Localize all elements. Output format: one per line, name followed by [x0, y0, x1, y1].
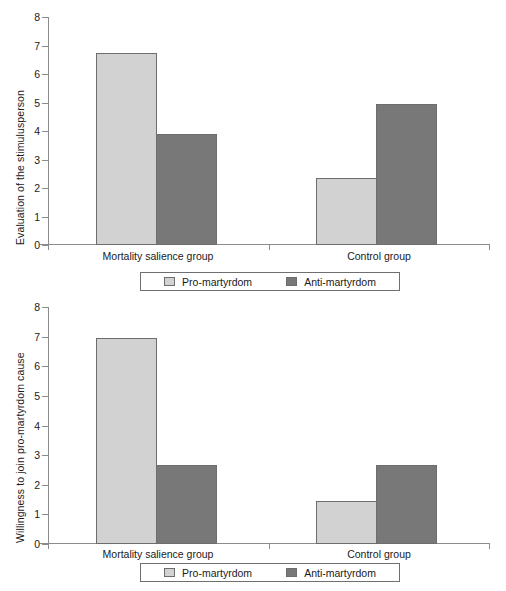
y-tick-label-3-top: 3: [22, 155, 40, 166]
y-tick-label-2-top: 2: [22, 183, 40, 194]
legend-swatch-anti-martyrdom-icon: [286, 277, 297, 286]
y-tick-label-7-bottom: 7: [22, 332, 40, 343]
y-tick-5-top: [42, 103, 49, 104]
y-tick-6-top: [42, 74, 49, 75]
y-tick-label-6-top: 6: [22, 69, 40, 80]
legend-label-anti-martyrdom-top: Anti-martyrdom: [304, 276, 376, 288]
y-tick-label-6-bottom: 6: [22, 361, 40, 372]
y-tick-label-1-top: 1: [22, 212, 40, 223]
y-tick-1-bottom: [42, 514, 49, 515]
y-tick-label-8-top: 8: [22, 12, 40, 23]
y-tick-3-bottom: [42, 455, 49, 456]
y-tick-3-top: [42, 160, 49, 161]
legend-swatch-pro-martyrdom-icon: [164, 277, 175, 286]
y-tick-2-top: [42, 188, 49, 189]
legend-label-pro-martyrdom-top: Pro-martyrdom: [182, 276, 252, 288]
legend-swatch-anti-martyrdom-icon: [286, 568, 297, 577]
y-tick-label-5-bottom: 5: [22, 391, 40, 402]
y-tick-4-top: [42, 131, 49, 132]
y-tick-label-3-bottom: 3: [22, 450, 40, 461]
y-tick-8-top: [42, 17, 49, 18]
legend-entry-pro-martyrdom-bottom: Pro-martyrdom: [164, 567, 252, 579]
y-tick-label-4-bottom: 4: [22, 421, 40, 432]
bar-control-anti-martyrdom-top: [376, 104, 437, 245]
plot-area-bottom: 8 7 6 5 4 3 2 1 0: [48, 307, 490, 544]
y-tick-7-bottom: [42, 337, 49, 338]
legend-top: Pro-martyrdom Anti-martyrdom: [140, 272, 400, 291]
bar-control-pro-martyrdom-top: [316, 178, 377, 245]
y-tick-2-bottom: [42, 485, 49, 486]
bar-mortality-pro-martyrdom-top: [96, 53, 157, 245]
bar-chart-figure: Evaluation of the stimulusperson 8 7 6 5…: [0, 0, 506, 591]
y-tick-5-bottom: [42, 396, 49, 397]
plot-area-top: 8 7 6 5 4 3 2 1 0: [48, 17, 490, 245]
bar-mortality-anti-martyrdom-bottom: [156, 465, 217, 544]
legend-label-anti-martyrdom-bottom: Anti-martyrdom: [304, 567, 376, 579]
x-category-label-mortality-bottom: Mortality salience group: [48, 548, 268, 560]
x-category-label-control-bottom: Control group: [268, 548, 490, 560]
bar-mortality-pro-martyrdom-bottom: [96, 338, 157, 544]
y-tick-label-2-bottom: 2: [22, 480, 40, 491]
bar-control-anti-martyrdom-bottom: [376, 465, 437, 544]
y-tick-label-4-top: 4: [22, 126, 40, 137]
legend-entry-anti-martyrdom-bottom: Anti-martyrdom: [286, 567, 376, 579]
y-tick-1-top: [42, 217, 49, 218]
x-category-label-mortality-top: Mortality salience group: [48, 250, 268, 262]
y-tick-label-1-bottom: 1: [22, 509, 40, 520]
y-tick-label-0-bottom: 0: [22, 539, 40, 550]
x-category-label-control-top: Control group: [268, 250, 490, 262]
y-tick-label-8-bottom: 8: [22, 302, 40, 313]
chart-panel-top: Evaluation of the stimulusperson 8 7 6 5…: [0, 0, 506, 295]
chart-panel-bottom: Willingness to join pro-martyrdom cause …: [0, 295, 506, 591]
legend-entry-pro-martyrdom-top: Pro-martyrdom: [164, 276, 252, 288]
bar-mortality-anti-martyrdom-top: [156, 134, 217, 245]
y-tick-4-bottom: [42, 426, 49, 427]
y-tick-label-0-top: 0: [22, 240, 40, 251]
y-tick-label-7-top: 7: [22, 41, 40, 52]
y-tick-8-bottom: [42, 307, 49, 308]
bar-control-pro-martyrdom-bottom: [316, 501, 377, 544]
legend-entry-anti-martyrdom-top: Anti-martyrdom: [286, 276, 376, 288]
legend-label-pro-martyrdom-bottom: Pro-martyrdom: [182, 567, 252, 579]
legend-swatch-pro-martyrdom-icon: [164, 568, 175, 577]
y-tick-7-top: [42, 46, 49, 47]
legend-bottom: Pro-martyrdom Anti-martyrdom: [140, 563, 400, 582]
y-tick-label-5-top: 5: [22, 98, 40, 109]
y-tick-6-bottom: [42, 366, 49, 367]
